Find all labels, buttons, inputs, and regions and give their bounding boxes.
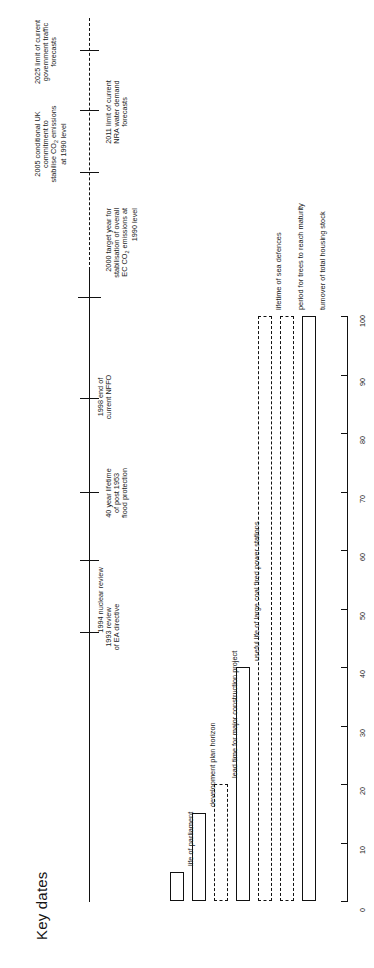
axis-tick-10 <box>341 843 348 844</box>
axis-tick-80 <box>341 433 348 434</box>
axis-ticks-layer: 0102030405060708090100 <box>0 0 374 968</box>
axis-tick-60 <box>341 550 348 551</box>
axis-tick-label-10: 10 <box>359 846 367 854</box>
axis-tick-label-100: 100 <box>359 315 367 327</box>
axis-tick-0 <box>341 901 348 902</box>
bar-chart: life of parliamentdevelopment plan horiz… <box>0 0 374 968</box>
axis-tick-label-90: 90 <box>359 378 367 386</box>
axis-tick-label-0: 0 <box>359 908 367 912</box>
key-dates-figure: Key dates 1993 review of EA directive 19… <box>0 0 374 968</box>
axis-tick-70 <box>341 492 348 493</box>
axis-tick-label-60: 60 <box>359 553 367 561</box>
axis-tick-90 <box>341 375 348 376</box>
axis-tick-label-50: 50 <box>359 612 367 620</box>
axis-tick-label-70: 70 <box>359 495 367 503</box>
axis-tick-30 <box>341 726 348 727</box>
axis-tick-label-40: 40 <box>359 670 367 678</box>
axis-tick-20 <box>341 784 348 785</box>
axis-tick-label-80: 80 <box>359 436 367 444</box>
axis-tick-100 <box>341 316 348 317</box>
axis-tick-label-20: 20 <box>359 787 367 795</box>
axis-tick-40 <box>341 667 348 668</box>
axis-tick-50 <box>341 609 348 610</box>
axis-tick-label-30: 30 <box>359 729 367 737</box>
